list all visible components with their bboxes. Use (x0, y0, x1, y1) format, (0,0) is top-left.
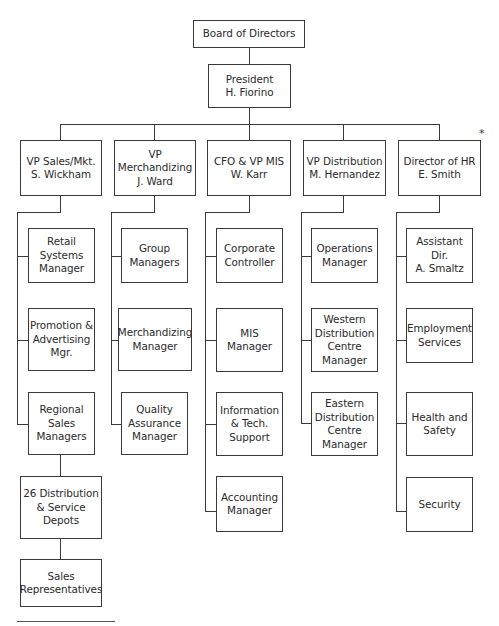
connector (111, 212, 155, 213)
connector (249, 124, 250, 140)
retail-systems-manager-box: Retail Systems Manager (28, 228, 95, 283)
cfo-vp-mis-box: CFO & VP MIS W. Karr (207, 140, 291, 196)
connector (60, 539, 61, 559)
director-hr-box: Director of HR E. Smith (398, 140, 481, 196)
connector (154, 124, 155, 140)
sales-representatives-box: Sales Representatives (20, 559, 102, 607)
assistant-director-box: Assistant Dir. A. Smaltz (406, 228, 473, 283)
connector (60, 124, 61, 140)
security-box: Security (406, 477, 473, 532)
connector (205, 424, 216, 425)
information-tech-support-box: Information & Tech. Support (216, 392, 283, 456)
connector (60, 196, 61, 212)
vp-sales-box: VP Sales/Mkt. S. Wickham (20, 140, 102, 196)
accounting-manager-box: Accounting Manager (216, 476, 283, 532)
connector (205, 340, 216, 341)
connector (249, 108, 250, 124)
connector (111, 256, 121, 257)
mis-manager-box: MIS Manager (216, 308, 283, 372)
connector (111, 424, 121, 425)
board-of-directors-box: Board of Directors (193, 20, 305, 48)
western-distribution-centre-box: Western Distribution Centre Manager (311, 308, 378, 372)
connector (301, 340, 311, 341)
connector (205, 511, 216, 512)
connector (301, 256, 311, 257)
vp-distribution-box: VP Distribution M. Hernandez (303, 140, 386, 196)
vp-merchandizing-box: VP Merchandizing J. Ward (114, 140, 196, 196)
connector (301, 212, 302, 424)
quality-assurance-manager-box: Quality Assurance Manager (121, 392, 188, 455)
connector (249, 196, 250, 212)
connector (17, 340, 28, 341)
merchandizing-manager-box: Merchandizing Manager (118, 308, 192, 371)
connector (249, 48, 250, 64)
connector (154, 196, 155, 212)
operations-manager-box: Operations Manager (311, 228, 378, 283)
connector (60, 455, 61, 476)
distribution-service-depots-box: 26 Distribution & Service Depots (20, 476, 102, 539)
promotion-advertising-box: Promotion & Advertising Mgr. (28, 308, 95, 371)
connector (301, 212, 344, 213)
connector (111, 212, 112, 424)
health-and-safety-box: Health and Safety (406, 392, 473, 456)
eastern-distribution-centre-box: Eastern Distribution Centre Manager (311, 392, 378, 456)
group-managers-box: Group Managers (121, 228, 188, 283)
connector (439, 124, 440, 140)
connector (396, 511, 406, 512)
connector (396, 340, 406, 341)
connector (205, 212, 250, 213)
employment-services-box: Employment Services (406, 308, 473, 363)
connector (439, 196, 440, 212)
connector (343, 124, 344, 140)
connector (17, 212, 18, 424)
president-box: President H. Fiorino (208, 64, 291, 108)
connector (205, 256, 216, 257)
regional-sales-managers-box: Regional Sales Managers (28, 392, 95, 455)
footnote-rule (17, 621, 115, 622)
asterisk-annotation: * (479, 127, 485, 140)
corporate-controller-box: Corporate Controller (216, 228, 283, 283)
connector (17, 212, 61, 213)
connector (301, 423, 311, 424)
connector (396, 212, 440, 213)
connector (396, 256, 406, 257)
connector (17, 424, 28, 425)
connector (396, 423, 406, 424)
connector (343, 196, 344, 212)
connector (17, 256, 28, 257)
